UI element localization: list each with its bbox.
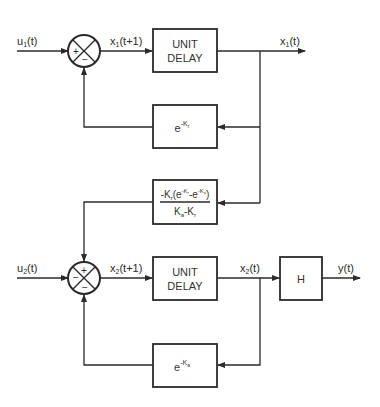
unit-delay-1-line2: DELAY bbox=[167, 52, 203, 64]
output-h-label: H bbox=[297, 273, 305, 285]
unit-delay-1-line1: UNIT bbox=[172, 38, 198, 50]
unit-delay-2-block: UNIT DELAY bbox=[153, 257, 217, 300]
output-h-block: H bbox=[280, 257, 322, 300]
x2-label: x2(t) bbox=[240, 262, 260, 275]
y-label: y(t) bbox=[338, 262, 354, 274]
lower-junction-bottom-sign: − bbox=[82, 282, 88, 293]
coupling-output-line bbox=[84, 202, 153, 261]
feedback-2-block: e-Ka bbox=[153, 344, 217, 387]
upper-junction-left-sign: + bbox=[73, 46, 79, 57]
feedback2-return-line bbox=[84, 295, 153, 365]
upper-junction-bottom-sign: − bbox=[82, 54, 88, 65]
x2-next-label: x2(t+1) bbox=[110, 262, 142, 275]
u1-label: u1(t) bbox=[17, 35, 37, 48]
feedback1-return-line bbox=[84, 68, 153, 127]
u2-label: u2(t) bbox=[17, 262, 37, 275]
unit-delay-2-line2: DELAY bbox=[167, 280, 203, 292]
block-diagram: u1(t) + − x1(t+1) UNIT DELAY x1(t) e-Kr … bbox=[0, 0, 380, 407]
unit-delay-2-line1: UNIT bbox=[172, 266, 198, 278]
coupling-block: -Kr(e-Kr-e-Ka) Ka-Kr bbox=[153, 180, 217, 224]
x1-label: x1(t) bbox=[280, 35, 300, 48]
coupling-denominator: Ka-Kr bbox=[174, 206, 196, 218]
feedback-1-block: e-Kr bbox=[153, 105, 217, 148]
lower-junction-left-sign: − bbox=[73, 272, 79, 283]
x1-next-label: x1(t+1) bbox=[110, 35, 142, 48]
upper-summing-junction: + − bbox=[68, 35, 100, 67]
unit-delay-1-block: UNIT DELAY bbox=[153, 29, 217, 72]
x2-branch-line bbox=[218, 278, 260, 365]
lower-junction-top-sign: + bbox=[81, 265, 87, 276]
lower-summing-junction: + − − bbox=[68, 262, 100, 294]
